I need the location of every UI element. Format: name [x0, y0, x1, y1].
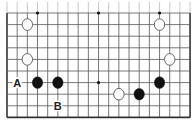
star-point [97, 81, 100, 84]
board-grid [7, 2, 190, 117]
black-stone [134, 88, 144, 100]
point-label-b: B [54, 100, 62, 112]
white-stone [22, 19, 32, 31]
black-stone [53, 77, 63, 89]
white-stone [114, 88, 124, 100]
star-point [158, 11, 161, 14]
white-stone [154, 19, 164, 31]
white-stone [165, 54, 175, 66]
black-stone [154, 77, 164, 89]
white-stone [22, 54, 32, 66]
black-stone [32, 77, 42, 89]
star-point [36, 11, 39, 14]
point-label-a: A [13, 77, 21, 89]
go-board: AB [0, 0, 196, 125]
star-point [97, 11, 100, 14]
